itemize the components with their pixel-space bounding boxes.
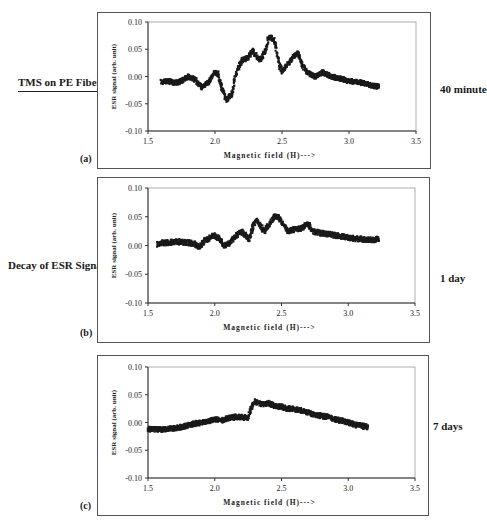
x-tick-label: 2.0 [210,484,220,493]
x-tick-label: 3.0 [343,484,353,493]
y-tick-label: -0.10 [125,474,142,483]
x-axis-title: Magnetic field (H)---> [223,498,316,507]
x-tick-label: 3.5 [410,484,420,493]
esr-chart-c: 0.100.050.00-0.05-0.101.52.02.53.03.5Mag… [0,0,487,523]
y-tick-label: 0.05 [128,391,142,400]
y-tick-label: 0.00 [128,419,142,428]
x-tick-label: 1.5 [143,484,153,493]
data-series [147,398,369,433]
y-tick-label: -0.05 [125,446,142,455]
y-tick-label: 0.10 [128,363,142,372]
y-axis-title: ESR signal (arb. unit) [110,389,118,455]
x-tick-label: 2.5 [277,484,287,493]
